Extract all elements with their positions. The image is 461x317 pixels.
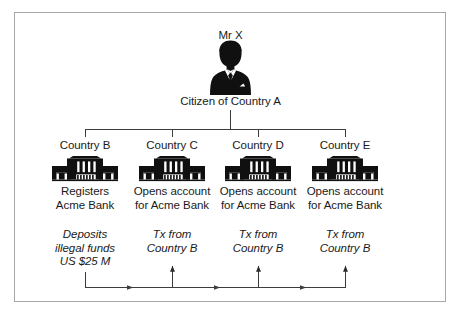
person-title: Mr X xyxy=(0,29,461,42)
branch-action-e: Opens account for Acme Bank xyxy=(285,185,405,212)
country-label-e: Country E xyxy=(285,139,405,152)
branch-note-e: Tx from Country B xyxy=(285,228,405,255)
person-caption: Citizen of Country A xyxy=(0,95,461,108)
diagram-root: Mr X Citizen of Country A Country B Regi… xyxy=(0,0,461,317)
